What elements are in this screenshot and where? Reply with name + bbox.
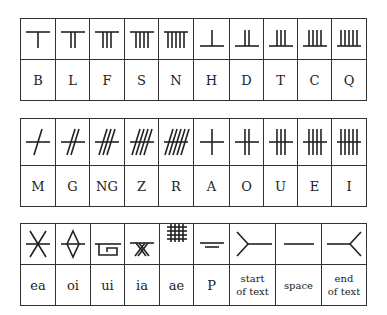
letter-label: O <box>230 166 264 207</box>
n-glyph-icon <box>161 24 191 54</box>
letter-label: NG <box>90 166 125 207</box>
label-line: of text <box>236 286 269 297</box>
letter-label: F <box>90 60 125 101</box>
ng-glyph-icon <box>92 125 122 159</box>
ogham-table-2: M G NG Z R A O U E I <box>20 118 367 207</box>
ogham-table-3: ea oi ui ia ae P startof text space endo… <box>20 223 367 306</box>
o-glyph-cell <box>230 119 264 166</box>
letter-label: E <box>298 166 332 207</box>
z-glyph-cell <box>125 119 159 166</box>
letter-label: H <box>194 60 230 101</box>
letter-label: N <box>159 60 194 101</box>
a-glyph-icon <box>197 125 227 159</box>
ae-glyph-cell <box>160 224 194 265</box>
q-glyph-icon <box>334 24 364 54</box>
letter-label: M <box>21 166 56 207</box>
e-glyph-cell <box>298 119 332 166</box>
space-label: space <box>276 265 322 306</box>
b-glyph-icon <box>23 24 53 54</box>
letter-label: Z <box>125 166 159 207</box>
i-glyph-icon <box>334 125 364 159</box>
label-line: of text <box>328 286 361 297</box>
letter-label: Q <box>332 60 367 101</box>
o-glyph-icon <box>232 125 262 159</box>
ui-glyph-icon <box>93 227 123 261</box>
s-glyph-icon <box>127 24 157 54</box>
letter-label: ui <box>91 265 125 306</box>
m-glyph-icon <box>23 125 53 159</box>
u-glyph-cell <box>264 119 298 166</box>
oi-glyph-icon <box>58 227 88 261</box>
z-glyph-icon <box>127 125 157 159</box>
letter-label: L <box>56 60 90 101</box>
ogham-table-1: B L F S N H D T C Q <box>20 18 367 101</box>
end-of-text-label: endof text <box>322 265 367 306</box>
l-glyph-icon <box>58 24 88 54</box>
ea-glyph-icon <box>23 227 53 261</box>
letter-label: A <box>194 166 230 207</box>
label-line: end <box>335 273 354 284</box>
r-glyph-icon <box>161 125 191 159</box>
e-glyph-icon <box>300 125 330 159</box>
start-of-text-glyph-cell <box>230 224 276 265</box>
label-line: start <box>241 273 265 284</box>
end-of-text-glyph-cell <box>322 224 367 265</box>
t-glyph-cell <box>264 19 298 60</box>
ia-glyph-cell <box>125 224 160 265</box>
l-glyph-cell <box>56 19 90 60</box>
m-glyph-cell <box>21 119 56 166</box>
space-glyph-cell <box>276 224 322 265</box>
s-glyph-cell <box>125 19 159 60</box>
letter-label: S <box>125 60 159 101</box>
ae-glyph-icon <box>162 221 192 255</box>
letter-label: G <box>56 166 90 207</box>
ng-glyph-cell <box>90 119 125 166</box>
q-glyph-cell <box>332 19 367 60</box>
c-glyph-icon <box>300 24 330 54</box>
ia-glyph-icon <box>127 227 157 261</box>
letter-label: ea <box>21 265 56 306</box>
a-glyph-cell <box>194 119 230 166</box>
letter-label: B <box>21 60 56 101</box>
start-of-text-glyph-icon <box>232 227 274 261</box>
oi-glyph-cell <box>56 224 91 265</box>
p-glyph-icon <box>197 227 227 261</box>
d-glyph-icon <box>232 24 262 54</box>
n-glyph-cell <box>159 19 194 60</box>
letter-label: T <box>264 60 298 101</box>
letter-label: I <box>332 166 367 207</box>
letter-label: C <box>298 60 332 101</box>
r-glyph-cell <box>159 119 194 166</box>
g-glyph-icon <box>58 125 88 159</box>
letter-label: P <box>194 265 230 306</box>
ea-glyph-cell <box>21 224 56 265</box>
g-glyph-cell <box>56 119 90 166</box>
f-glyph-icon <box>92 24 122 54</box>
d-glyph-cell <box>230 19 264 60</box>
f-glyph-cell <box>90 19 125 60</box>
letter-label: ia <box>125 265 160 306</box>
u-glyph-icon <box>266 125 296 159</box>
letter-label: D <box>230 60 264 101</box>
i-glyph-cell <box>332 119 367 166</box>
end-of-text-glyph-icon <box>323 227 365 261</box>
space-glyph-icon <box>278 227 320 261</box>
letter-label: oi <box>56 265 91 306</box>
letter-label: U <box>264 166 298 207</box>
ui-glyph-cell <box>91 224 125 265</box>
p-glyph-cell <box>194 224 230 265</box>
letter-label: ae <box>160 265 194 306</box>
start-of-text-label: startof text <box>230 265 276 306</box>
letter-label: R <box>159 166 194 207</box>
b-glyph-cell <box>21 19 56 60</box>
h-glyph-cell <box>194 19 230 60</box>
c-glyph-cell <box>298 19 332 60</box>
h-glyph-icon <box>197 24 227 54</box>
t-glyph-icon <box>266 24 296 54</box>
